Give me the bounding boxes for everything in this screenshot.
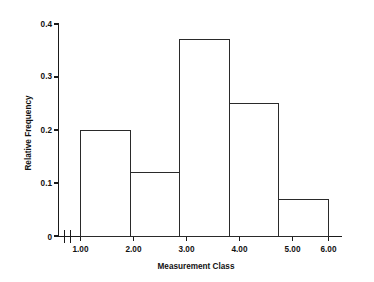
y-tick-label-0.3: 0.3: [41, 72, 53, 81]
x-tick-label-6.00: 6.00: [321, 245, 337, 254]
x-tick-label-5.00: 5.00: [285, 245, 301, 254]
chart-canvas: Relative Frequency 0.4 0.3 0.2 0.1 0 1.0…: [0, 0, 374, 282]
histogram-bar: [130, 173, 180, 237]
x-tick-label-2.00: 2.00: [126, 245, 142, 254]
y-axis-title: Relative Frequency: [24, 95, 33, 171]
histogram-bar: [279, 199, 329, 236]
x-axis-title: Measurement Class: [158, 262, 235, 271]
y-tick-label-0.4: 0.4: [41, 20, 53, 29]
histogram-chart: Relative Frequency 0.4 0.3 0.2 0.1 0 1.0…: [0, 0, 374, 282]
y-tick-label-0.1: 0.1: [41, 179, 53, 188]
histogram-bar: [81, 130, 131, 236]
x-tick-label-1.00: 1.00: [73, 245, 89, 254]
x-tick-label-4.00: 4.00: [232, 245, 248, 254]
histogram-bar: [180, 40, 230, 237]
y-tick-label-0.2: 0.2: [41, 126, 53, 135]
histogram-bar: [229, 104, 279, 237]
x-tick-label-3.00: 3.00: [179, 245, 195, 254]
y-tick-label-0: 0: [47, 233, 52, 242]
histogram-bars: [81, 40, 329, 237]
